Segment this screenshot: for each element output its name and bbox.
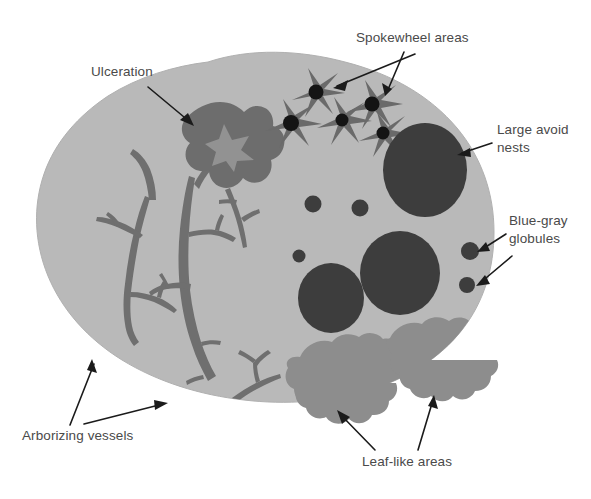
large-ovoid-nest — [360, 231, 440, 315]
spokewheel-hub — [365, 97, 380, 112]
blue-gray-globule — [459, 277, 475, 293]
dermoscopy-diagram: Spokewheel areas Ulceration Large avoid … — [0, 0, 591, 499]
label-blue-gray-globules-line1: Blue-gray — [509, 213, 568, 228]
spokewheel-hub — [377, 127, 390, 140]
large-ovoid-nest — [383, 123, 467, 217]
label-arborizing-vessels: Arborizing vessels — [22, 428, 133, 443]
large-ovoid-nest — [298, 263, 364, 333]
blue-gray-globule — [293, 250, 306, 263]
leader-arborizing-right — [84, 404, 163, 424]
spokewheel-hub — [336, 114, 349, 127]
arrowhead-arborizing-right — [154, 400, 168, 410]
leader-leaf-right — [418, 400, 433, 450]
label-leaf-like-areas: Leaf-like areas — [362, 454, 452, 469]
label-large-avoid-nests-line1: Large avoid — [497, 122, 569, 137]
label-large-avoid-nests-line2: nests — [497, 140, 530, 155]
label-spokewheel-areas: Spokewheel areas — [356, 30, 469, 45]
spokewheel-hub — [283, 115, 299, 131]
leader-arborizing-left — [70, 364, 94, 425]
leaf-like-area-overflow — [399, 360, 498, 401]
blue-gray-globule — [305, 196, 322, 213]
arrowhead-arborizing-left — [87, 359, 97, 373]
label-blue-gray-globules-line2: globules — [509, 231, 560, 246]
label-ulceration: Ulceration — [91, 64, 153, 79]
spokewheel-hub — [309, 85, 324, 100]
blue-gray-globule — [352, 200, 369, 217]
blue-gray-globule — [461, 242, 479, 260]
